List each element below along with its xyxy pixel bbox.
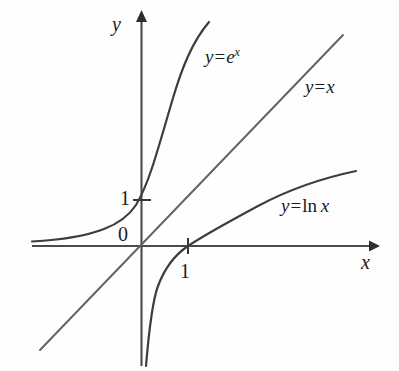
identity-label-rhs: x bbox=[326, 76, 334, 97]
exp-label-exponent: x bbox=[235, 45, 240, 59]
x-axis bbox=[32, 241, 380, 252]
y-axis-tick-label-1: 1 bbox=[120, 188, 130, 208]
y-axis-arrowhead bbox=[136, 10, 147, 22]
log-label-function: ln bbox=[302, 195, 317, 216]
x-axis-arrowhead bbox=[369, 241, 380, 252]
curve-label-logarithm: y=ln x bbox=[281, 196, 329, 215]
identity-label-equals: = bbox=[313, 76, 326, 97]
y-axis-label: y bbox=[112, 14, 121, 34]
exp-label-base: e bbox=[226, 46, 234, 67]
log-label-argument: x bbox=[321, 195, 329, 216]
curve-label-identity: y=x bbox=[305, 77, 335, 96]
x-axis-label: x bbox=[361, 252, 370, 272]
curve-label-exponential: y=ex bbox=[205, 47, 240, 66]
origin-label: 0 bbox=[118, 224, 128, 244]
function-graph-figure: y=ex y=x y=ln x y x 1 0 1 bbox=[0, 0, 399, 371]
exp-label-equals: = bbox=[213, 46, 226, 67]
plot-canvas bbox=[0, 0, 399, 371]
log-label-equals: = bbox=[289, 195, 302, 216]
x-axis-tick-label-1: 1 bbox=[180, 261, 190, 281]
curve-identity bbox=[40, 35, 343, 350]
